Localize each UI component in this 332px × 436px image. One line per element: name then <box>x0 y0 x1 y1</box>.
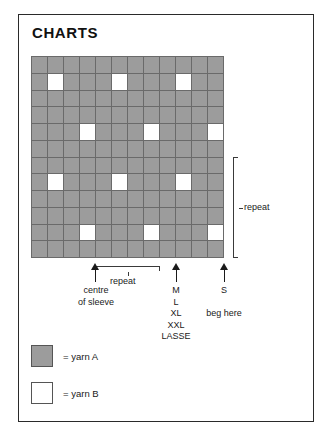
chart-cell <box>96 174 112 191</box>
page-title: CHARTS <box>32 24 98 41</box>
chart-cell <box>64 74 80 91</box>
chart-cell <box>192 107 208 124</box>
chart-cell <box>48 191 64 208</box>
chart-cell <box>160 107 176 124</box>
chart-cell <box>80 225 96 242</box>
chart-cell <box>112 91 128 108</box>
chart-cell <box>96 107 112 124</box>
chart-cell <box>112 225 128 242</box>
chart-cell <box>80 74 96 91</box>
chart-cell <box>112 191 128 208</box>
chart-cell <box>112 107 128 124</box>
chart-cell <box>64 141 80 158</box>
chart-cell <box>32 158 48 175</box>
chart-cell <box>112 57 128 74</box>
chart-cell <box>32 107 48 124</box>
chart-cell <box>80 91 96 108</box>
chart-cell <box>48 241 64 258</box>
legend-item-yarn-a: = yarn A <box>31 345 98 367</box>
chart-cell <box>144 57 160 74</box>
chart-cell <box>208 241 224 258</box>
repeat-bracket-horizontal <box>95 266 160 271</box>
chart-cell <box>176 57 192 74</box>
chart-cell <box>80 191 96 208</box>
chart-cell <box>128 91 144 108</box>
chart-cell <box>208 74 224 91</box>
chart-cell <box>144 107 160 124</box>
chart-cell <box>48 74 64 91</box>
chart-cell <box>80 107 96 124</box>
chart-cell <box>80 57 96 74</box>
chart-cell <box>208 124 224 141</box>
chart-cell <box>208 107 224 124</box>
chart-cell <box>32 141 48 158</box>
chart-cell <box>128 225 144 242</box>
chart-cell <box>48 57 64 74</box>
chart-cell <box>64 225 80 242</box>
arrow-shaft <box>224 268 225 282</box>
chart-cell <box>144 74 160 91</box>
chart-cell <box>64 174 80 191</box>
chart-cell <box>192 191 208 208</box>
chart-cell <box>96 57 112 74</box>
chart-cell <box>192 208 208 225</box>
chart-cell <box>128 107 144 124</box>
arrow-shaft <box>176 268 177 282</box>
chart-cell <box>192 57 208 74</box>
chart-cell <box>64 191 80 208</box>
chart-cell <box>176 225 192 242</box>
chart-cell <box>64 241 80 258</box>
chart-cell <box>128 241 144 258</box>
chart-cell <box>128 174 144 191</box>
chart-cell <box>192 141 208 158</box>
chart-cell <box>144 191 160 208</box>
chart-cell <box>160 225 176 242</box>
chart-cell <box>128 141 144 158</box>
chart-cell <box>48 107 64 124</box>
chart-cell <box>160 124 176 141</box>
size-label-xxl: XXL <box>146 320 206 332</box>
chart-cell <box>144 241 160 258</box>
chart-cell <box>96 191 112 208</box>
chart-cell <box>64 57 80 74</box>
chart-cell <box>160 91 176 108</box>
chart-cell <box>32 225 48 242</box>
chart-cell <box>96 158 112 175</box>
chart-cell <box>112 158 128 175</box>
legend-swatch-yarn-b <box>31 382 53 404</box>
chart-cell <box>160 158 176 175</box>
chart-cell <box>192 174 208 191</box>
chart-cell <box>208 91 224 108</box>
chart-cell <box>112 124 128 141</box>
chart-cell <box>176 241 192 258</box>
chart-cell <box>32 191 48 208</box>
chart-cell <box>176 191 192 208</box>
chart-cell <box>64 91 80 108</box>
chart-cell <box>144 124 160 141</box>
chart-cell <box>192 124 208 141</box>
chart-cell <box>48 158 64 175</box>
chart-cell <box>112 241 128 258</box>
size-label-lasse: LASSE <box>146 331 206 343</box>
repeat-bracket-vertical-tick <box>239 208 243 209</box>
chart-cell <box>32 74 48 91</box>
chart-cell <box>128 124 144 141</box>
chart-cell <box>208 57 224 74</box>
legend-label-yarn-a: = yarn A <box>63 351 98 362</box>
legend-item-yarn-b: = yarn B <box>31 382 99 404</box>
chart-cell <box>96 225 112 242</box>
chart-cell <box>176 174 192 191</box>
chart-cell <box>32 174 48 191</box>
chart-cell <box>192 91 208 108</box>
centre-of-sleeve-caption: centre of sleeve <box>60 285 132 308</box>
chart-cell <box>64 158 80 175</box>
chart-cell <box>176 91 192 108</box>
chart-cell <box>48 225 64 242</box>
chart-cell <box>48 141 64 158</box>
chart-cell <box>128 57 144 74</box>
centre-of-sleeve-line-2: of sleeve <box>60 297 132 309</box>
chart-cell <box>48 174 64 191</box>
chart-cell <box>160 141 176 158</box>
chart-cell <box>64 208 80 225</box>
chart-cell <box>144 174 160 191</box>
